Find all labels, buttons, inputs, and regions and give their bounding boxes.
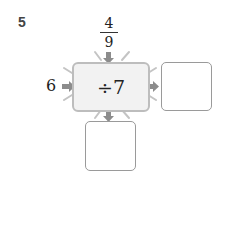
operation-label: ÷7 bbox=[72, 62, 150, 112]
right-answer-box[interactable] bbox=[161, 62, 212, 111]
bottom-answer-box[interactable] bbox=[85, 121, 136, 171]
left-input-value: 6 bbox=[46, 76, 56, 95]
